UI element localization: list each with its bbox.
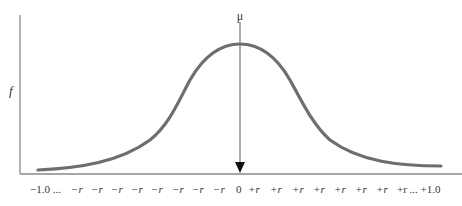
y-axis-label: f [9,83,15,98]
x-tick-label: −r [172,183,184,195]
x-tick-label: +r ... +1.0 [397,183,441,195]
x-tick-label: +r [313,183,325,195]
x-tick-label: −r [71,183,83,195]
x-tick-label: +r [355,183,367,195]
x-tick-label: −r [91,183,103,195]
x-tick-label: +r [334,183,346,195]
x-tick-label: +r [270,183,282,195]
x-tick-labels: −1.0 ... −r −r −r −r −r −r −r −r 0 +r +r… [30,183,441,195]
x-tick-label: +r [292,183,304,195]
x-tick-label: +r [248,183,260,195]
x-tick-label: −r [151,183,163,195]
x-tick-label: −1.0 ... [30,183,61,195]
x-tick-label: 0 [236,183,242,195]
x-tick-label: +r [376,183,388,195]
x-tick-label: −r [213,183,225,195]
mean-label: μ [237,9,243,23]
x-tick-label: −r [192,183,204,195]
x-tick-label: −r [111,183,123,195]
x-tick-label: −r [131,183,143,195]
normal-distribution-diagram: μ f −1.0 ... −r −r −r −r −r −r −r −r 0 +… [0,0,462,206]
arrow-down-icon [235,162,245,173]
